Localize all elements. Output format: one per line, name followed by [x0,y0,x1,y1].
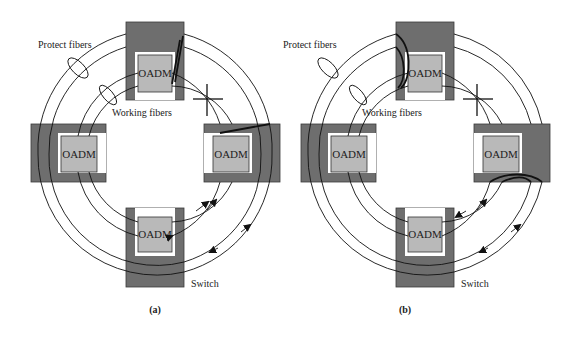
arrow-icon [456,211,466,217]
svg-text:OADM: OADM [408,67,442,79]
switch-label: Switch [191,278,219,289]
svg-text:OADM: OADM [484,148,518,160]
working-fibers-label: Working fibers [362,107,422,118]
svg-text:OADM: OADM [138,67,172,79]
oadm-top: OADM [138,55,172,92]
working-fibers-label: Working fibers [112,107,172,118]
oadm-right: OADM [213,136,249,172]
svg-text:OADM: OADM [62,148,96,160]
oadm-top: OADM [408,55,442,92]
working-fibers-ellipse [346,83,369,108]
oadm-right: OADM [483,136,519,172]
svg-text:OADM: OADM [408,228,442,240]
panel-b: OADM OADM OADM OADM [283,22,550,316]
svg-text:OADM: OADM [138,228,172,240]
oadm-left: OADM [331,136,367,172]
panel-a: OADM OADM OADM OADM [31,22,280,316]
caption-b: (b) [399,304,411,316]
caption-a: (a) [149,304,161,316]
protect-fibers-label: Protect fibers [283,39,337,50]
protect-fibers-ellipse [315,55,342,82]
ring-protection-diagram: OADM OADM OADM OADM [0,0,581,344]
svg-text:OADM: OADM [214,148,248,160]
oadm-left: OADM [61,136,97,172]
switch-label: Switch [461,278,489,289]
protect-fibers-label: Protect fibers [38,39,92,50]
oadm-bottom: OADM [138,217,172,252]
oadm-bottom: OADM [408,217,442,252]
svg-text:OADM: OADM [332,148,366,160]
